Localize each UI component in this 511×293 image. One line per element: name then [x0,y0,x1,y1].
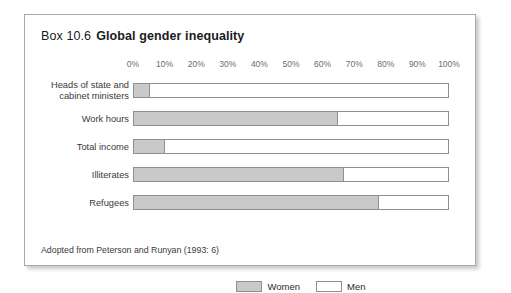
bar-category-label-line: Refugees [89,198,129,209]
x-tick-label: 10% [156,59,173,69]
bar-category-label-line: Total income [77,142,129,153]
bar-fill-women [134,84,150,97]
bar-category-label-line: cabinet ministers [59,91,129,102]
bar-track-men [133,83,449,98]
x-tick-label: 60% [314,59,331,69]
bar-category-label: Illiterates [33,161,129,189]
figure-box: Box 10.6Global gender inequality 0%10%20… [24,14,476,266]
bar-rows: Heads of state andcabinet ministersWork … [25,77,477,217]
x-axis-ticks: 0%10%20%30%40%50%60%70%80%90%100% [133,59,449,73]
bar-track-men [133,111,449,126]
legend-item-women: Women [236,281,300,292]
chart-area: 0%10%20%30%40%50%60%70%80%90%100% Heads … [25,59,477,234]
legend-item-men: Men [316,281,365,292]
bar-fill-women [134,140,165,153]
legend-swatch-women [236,281,262,292]
source-note: Adopted from Peterson and Runyan (1993: … [41,245,219,255]
box-number: Box 10.6 [41,29,91,43]
x-tick-label: 100% [438,59,460,69]
bar-category-label-line: Heads of state and [51,80,129,91]
bar-fill-women [134,112,338,125]
bar-track-men [133,167,449,182]
bar-row: Total income [25,133,477,161]
page-title: Box 10.6Global gender inequality [41,29,244,43]
legend-label-men: Men [347,281,365,292]
box-title-text: Global gender inequality [96,29,244,43]
bar-fill-women [134,168,344,181]
bar-category-label: Refugees [33,189,129,217]
bar-fill-women [134,196,379,209]
legend-swatch-men [316,281,342,292]
chart-legend: Women Men [25,281,477,292]
bar-row: Heads of state andcabinet ministers [25,77,477,105]
bar-category-label: Heads of state andcabinet ministers [33,77,129,105]
bar-category-label-line: Work hours [82,114,129,125]
bar-category-label: Total income [33,133,129,161]
x-tick-label: 80% [377,59,394,69]
bar-track-men [133,139,449,154]
bar-row: Work hours [25,105,477,133]
bar-category-label-line: Illiterates [92,170,129,181]
bar-category-label: Work hours [33,105,129,133]
x-tick-label: 70% [346,59,363,69]
x-tick-label: 20% [188,59,205,69]
bar-row: Illiterates [25,161,477,189]
x-tick-label: 30% [219,59,236,69]
bar-track-men [133,195,449,210]
x-tick-label: 90% [409,59,426,69]
legend-label-women: Women [267,281,300,292]
x-tick-label: 40% [251,59,268,69]
x-tick-label: 50% [282,59,299,69]
bar-row: Refugees [25,189,477,217]
x-tick-label: 0% [127,59,139,69]
